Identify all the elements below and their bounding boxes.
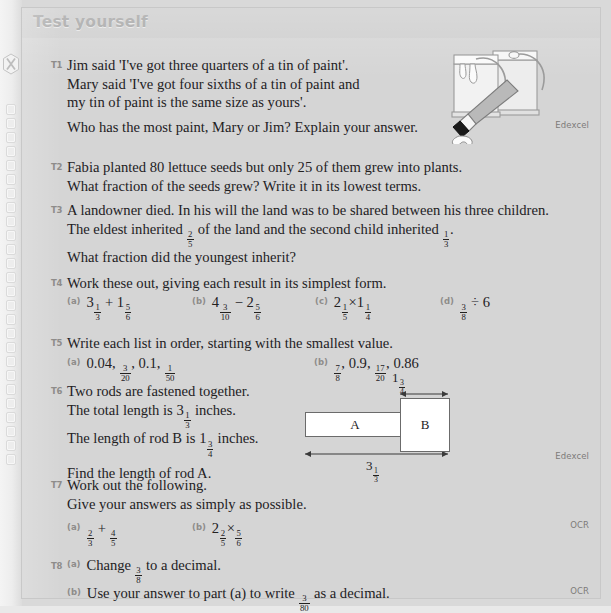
binding-hole (6, 342, 16, 353)
binding-hole (6, 440, 16, 451)
binding-hole (6, 384, 16, 395)
question-part-t4-b: (b)4310 − 256 (192, 294, 261, 322)
binding-hole (6, 356, 16, 367)
binding-hole (6, 188, 16, 199)
question-number-t3: T3 (51, 205, 62, 215)
question-line: The eldest inherited 25 of the land and … (67, 220, 549, 249)
fraction: 13 (443, 230, 449, 249)
part-label: (b) (192, 296, 206, 306)
binding-hole (6, 454, 16, 465)
question-number-t5: T5 (51, 338, 62, 348)
x-in-hexagon-icon (2, 53, 20, 75)
question-line: What fraction did the youngest inherit? (67, 248, 549, 267)
binding-hole (6, 300, 16, 311)
fraction: 13 (184, 411, 190, 430)
part-label: (a) (67, 522, 81, 532)
fraction: 23 (87, 529, 93, 548)
question-part-t8-a: (a)Change 38 to a decimal. (67, 557, 221, 585)
test-yourself-panel: Test yourself T1Jim said 'I've got three… (22, 8, 600, 598)
rod-b-box: B (400, 398, 450, 452)
binding-hole (6, 202, 16, 213)
part-label: (a) (67, 296, 81, 306)
question-part-t4-a: (a)313 + 156 (67, 294, 132, 322)
fraction: 13 (373, 467, 379, 484)
fraction: 150 (165, 364, 176, 383)
question-number-t1: T1 (51, 60, 62, 70)
fraction: 25 (220, 529, 226, 548)
part-label: (b) (67, 587, 81, 597)
fraction: 38 (460, 303, 466, 322)
binding-hole (6, 216, 16, 227)
question-line: Work out the following. (67, 476, 307, 495)
part-label: (b) (192, 522, 206, 532)
part-label: (d) (440, 296, 454, 306)
question-number-t7: T7 (51, 480, 62, 490)
fraction: 25 (187, 230, 193, 249)
question-line: Mary said 'I've got four sixths of a tin… (67, 75, 418, 94)
binding-hole (6, 118, 16, 129)
fraction: 14 (365, 303, 371, 322)
question-line: Work these out, giving each result in it… (67, 274, 386, 293)
exam-board-credit: Edexcel (555, 451, 589, 461)
binding-hole (6, 412, 16, 423)
question-number-t4: T4 (51, 278, 62, 288)
question-number-t6: T6 (51, 386, 62, 396)
question-text-t6: Two rods are fastened together.The total… (67, 382, 259, 483)
fraction: 15 (342, 303, 348, 322)
binding-hole (6, 174, 16, 185)
question-line: The length of rod B is 134 inches. (67, 429, 259, 458)
question-line: Jim said 'I've got three quarters of a t… (67, 56, 418, 75)
exam-board-credit: OCR (570, 586, 589, 596)
rod-diagram: 134 A B 313 (294, 370, 474, 470)
binding-hole (6, 314, 16, 325)
question-part-t4-d: (d)38 ÷ 6 (440, 294, 490, 322)
question-line: What fraction of the seeds grew? Write i… (67, 177, 462, 196)
binding-hole (6, 230, 16, 241)
fraction: 380 (299, 594, 310, 613)
binding-hole (6, 244, 16, 255)
part-label: (c) (315, 296, 328, 306)
fraction: 310 (220, 303, 231, 322)
question-text-t1: Jim said 'I've got three quarters of a t… (67, 56, 418, 136)
question-part-t7-a: (a)23 + 45 (67, 520, 117, 548)
question-line: The total length is 313 inches. (67, 401, 259, 430)
binding-hole (6, 104, 16, 115)
question-text-t3: A landowner died. In his will the land w… (67, 201, 549, 267)
binding-hole (6, 132, 16, 143)
binding-hole (6, 146, 16, 157)
question-text-t4: Work these out, giving each result in it… (67, 274, 386, 293)
question-text-t5: Write each list in order, starting with … (67, 334, 393, 353)
question-line: Give your answers as simply as possible. (67, 495, 307, 514)
question-number-t2: T2 (51, 162, 62, 172)
page-title: Test yourself (33, 13, 148, 31)
part-label: (a) (67, 559, 81, 569)
fraction: 56 (235, 529, 241, 548)
rod-bottom-dimension-label: 313 (366, 458, 379, 484)
binding-hole (6, 272, 16, 283)
paint-drip (452, 136, 472, 144)
spiral-binding-holes (4, 104, 17, 604)
exam-board-credit: OCR (570, 520, 589, 530)
binding-hole (6, 286, 16, 297)
fraction: 38 (135, 566, 141, 585)
question-number-t8: T8 (51, 561, 62, 571)
fraction: 56 (254, 303, 260, 322)
binding-hole (6, 160, 16, 171)
part-label: (b) (314, 357, 328, 367)
question-part-t4-c: (c)215×114 (315, 294, 372, 322)
paint-tins-and-brush-illustration (446, 46, 568, 144)
question-line: my tin of paint is the same size as your… (67, 93, 418, 112)
fraction: 34 (207, 440, 213, 459)
fraction: 320 (120, 364, 131, 383)
binding-hole (6, 398, 16, 409)
question-part-t7-b: (b)225×56 (192, 520, 242, 548)
question-line: Two rods are fastened together. (67, 382, 259, 401)
question-line: Who has the most paint, Mary or Jim? Exp… (67, 118, 418, 137)
fraction: 56 (125, 303, 131, 322)
binding-hole (6, 328, 16, 339)
binding-hole (6, 258, 16, 269)
part-label: (a) (67, 357, 81, 367)
question-part-t5-a: (a)0.04, 320, 0.1, 150 (67, 355, 176, 383)
question-text-t7: Work out the following.Give your answers… (67, 476, 307, 513)
